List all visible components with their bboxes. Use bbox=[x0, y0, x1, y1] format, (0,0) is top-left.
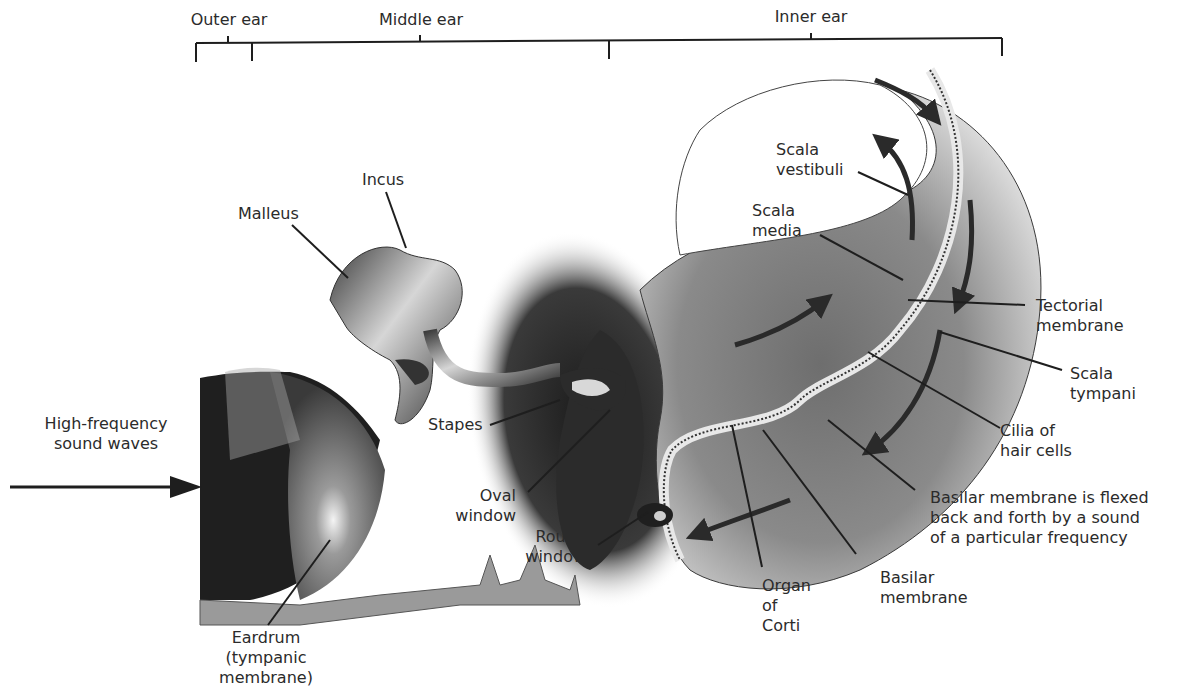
ear-diagram-artwork bbox=[0, 0, 1196, 688]
label-incus: Incus bbox=[362, 170, 404, 189]
label-outer-ear: Outer ear bbox=[186, 10, 272, 29]
region-bracket bbox=[196, 33, 1002, 62]
label-middle-ear: Middle ear bbox=[368, 10, 474, 29]
sound-wave-arrow bbox=[10, 476, 202, 498]
label-inner-ear: Inner ear bbox=[768, 7, 854, 26]
label-stapes: Stapes bbox=[428, 415, 483, 434]
label-malleus: Malleus bbox=[238, 204, 299, 223]
